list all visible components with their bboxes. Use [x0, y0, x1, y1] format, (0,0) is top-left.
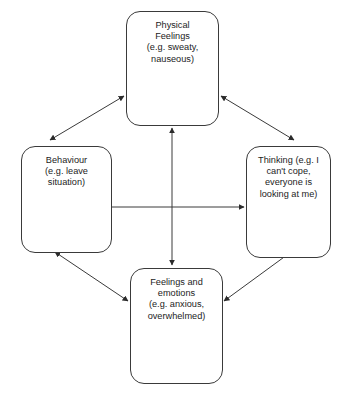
connector-physical-thinking — [221, 96, 294, 140]
node-physical-feelings-label: Physical Feelings (e.g. sweaty, nauseous… — [127, 20, 218, 65]
connector-behaviour-feelings — [55, 252, 128, 301]
node-physical-feelings[interactable]: Physical Feelings (e.g. sweaty, nauseous… — [126, 11, 219, 126]
node-feelings-and-emotions[interactable]: Feelings and emotions (e.g. anxious, ove… — [130, 268, 223, 384]
node-behaviour[interactable]: Behaviour (e.g. leave situation) — [21, 146, 112, 253]
node-feelings-and-emotions-label: Feelings and emotions (e.g. anxious, ove… — [131, 277, 222, 322]
node-behaviour-label: Behaviour (e.g. leave situation) — [22, 155, 111, 189]
cbt-cycle-diagram: Physical Feelings (e.g. sweaty, nauseous… — [0, 0, 357, 398]
connector-thinking-feelings — [224, 252, 291, 301]
connector-physical-behaviour — [50, 96, 124, 140]
node-thinking-label: Thinking (e.g. I can't cope, everyone is… — [247, 155, 330, 200]
node-thinking[interactable]: Thinking (e.g. I can't cope, everyone is… — [246, 146, 331, 258]
